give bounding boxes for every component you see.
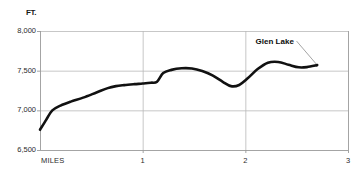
annotation-leader-line (297, 41, 318, 65)
data-series-group (40, 62, 317, 130)
gridlines (40, 31, 348, 150)
annotation-leader-lines (297, 41, 318, 65)
plot-area (0, 0, 361, 180)
elevation-profile-chart: FT. 6,5007,0007,5008,000 123 MILES Glen … (0, 0, 361, 180)
axis-lines (37, 31, 349, 153)
elevation-line (40, 62, 317, 130)
